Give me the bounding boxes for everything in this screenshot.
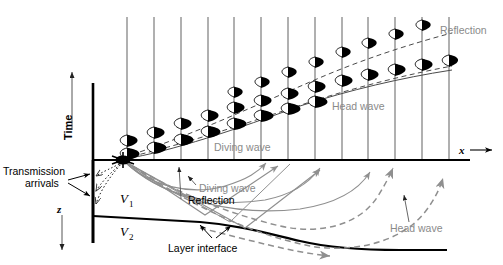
wavelet xyxy=(309,57,324,68)
leader-diving-lower xyxy=(188,176,196,185)
wavelet xyxy=(308,96,327,108)
depth-axis-label: z xyxy=(56,203,62,215)
wavelet xyxy=(282,67,297,78)
wavelet xyxy=(308,81,325,93)
head-wave-ray xyxy=(124,161,443,248)
wavelet xyxy=(416,20,431,31)
leader-interface-2 xyxy=(216,226,231,238)
wavelet-group-reflection xyxy=(228,20,431,98)
reflection-label-upper: Reflection xyxy=(440,24,487,36)
reflection-label-lower: Reflection xyxy=(188,194,235,206)
wavelet xyxy=(336,47,351,58)
wavelet xyxy=(228,87,243,98)
wavelet xyxy=(361,69,378,81)
wavelet xyxy=(389,29,404,40)
leader-interface-1 xyxy=(200,225,212,238)
wavelet xyxy=(147,127,164,139)
head-wave-label-upper: Head wave xyxy=(332,100,385,112)
transmission-arrivals-label-line1: Transmission xyxy=(3,165,65,177)
wavelet xyxy=(201,110,218,122)
head-wave-label-lower: Head wave xyxy=(390,222,443,234)
wavelet xyxy=(227,118,246,130)
layer-interface-label: Layer interface xyxy=(168,242,238,254)
wavelet xyxy=(254,95,271,107)
velocity-label-v2: V 2 xyxy=(120,224,134,242)
seismogram-panel xyxy=(72,17,492,243)
wavelet xyxy=(415,59,432,71)
leader-transmission-2 xyxy=(68,183,90,196)
offset-axis-label: x xyxy=(458,144,465,156)
wavelet xyxy=(281,103,300,115)
transmission-ray xyxy=(96,162,123,176)
wavelet xyxy=(254,110,273,122)
wavelet xyxy=(227,102,244,114)
velocity-subscript: 2 xyxy=(129,232,134,242)
wavelet xyxy=(442,55,458,67)
wavelet xyxy=(281,88,298,100)
wavelet xyxy=(255,77,270,88)
figure-canvas: Time x z Transmission arrivals V 1 V 2 D… xyxy=(0,0,503,265)
wavelet xyxy=(174,118,191,130)
transmission-arrivals-label-line2: arrivals xyxy=(25,177,59,189)
leader-headwave-lower xyxy=(404,195,409,222)
transmission-rays xyxy=(96,162,123,204)
diving-wave-label-upper: Diving wave xyxy=(214,141,271,153)
transmission-ray xyxy=(96,162,123,204)
wavelet xyxy=(335,75,352,87)
transmission-ray xyxy=(96,162,123,191)
velocity-subscript: 1 xyxy=(129,199,134,209)
wavelet xyxy=(362,38,377,49)
wavelet xyxy=(120,135,137,147)
leader-transmission-1 xyxy=(68,174,90,180)
wavelet xyxy=(201,126,220,138)
text-labels: Time x z Transmission arrivals V 1 V 2 D… xyxy=(3,24,487,254)
diving-wave-label-lower: Diving wave xyxy=(199,182,256,194)
time-axis-label: Time xyxy=(62,115,74,140)
wavelet xyxy=(388,64,405,76)
velocity-label-v1: V 1 xyxy=(120,191,134,209)
